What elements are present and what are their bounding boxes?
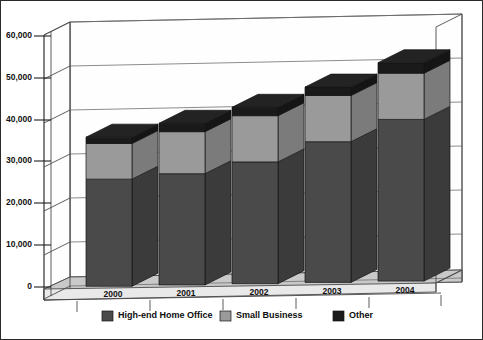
chart-container: 60,000 50,000 40,000 30,000 20,000 10,00… bbox=[0, 0, 483, 340]
x-tick-label-2004: 2004 bbox=[396, 285, 415, 295]
bar-segment-2004-0-front bbox=[378, 119, 424, 281]
bar-segment-2000-2-front bbox=[86, 137, 132, 143]
legend-label-1: Small Business bbox=[236, 310, 303, 320]
bar-group-2002[interactable] bbox=[232, 94, 304, 283]
legend-swatch-1 bbox=[220, 311, 231, 321]
x-tick-label-2003: 2003 bbox=[323, 286, 342, 296]
bar-segment-2000-0-front bbox=[86, 179, 132, 286]
bar-segment-2002-1-front bbox=[232, 116, 278, 162]
y-tick-label-20000: 20,000 bbox=[6, 197, 32, 207]
legend-label-2: Other bbox=[349, 310, 374, 320]
bar-segment-2002-0-front bbox=[232, 162, 278, 284]
bar-segment-2004-0-side bbox=[424, 106, 450, 281]
bar-segment-2004-2-front bbox=[378, 63, 424, 74]
bar-group-2004[interactable] bbox=[378, 50, 450, 281]
y-tick-label-30000: 30,000 bbox=[6, 155, 32, 165]
y-tick-label-0: 0 bbox=[27, 281, 32, 291]
bar-segment-2004-1-front bbox=[378, 73, 424, 119]
x-tick-label-2002: 2002 bbox=[250, 287, 269, 297]
y-tick-label-50000: 50,000 bbox=[6, 72, 32, 82]
bar-segment-2003-2-front bbox=[305, 87, 351, 95]
y-tick-label-10000: 10,000 bbox=[6, 239, 32, 249]
legend-swatch-0 bbox=[102, 311, 113, 321]
legend-label-0: High-end Home Office bbox=[118, 310, 213, 320]
x-tick-label-2000: 2000 bbox=[104, 289, 123, 299]
bar-group-2000[interactable] bbox=[86, 124, 158, 286]
bar-group-2003[interactable] bbox=[305, 74, 377, 282]
bar-segment-2001-1-front bbox=[159, 132, 205, 174]
bar-group-2001[interactable] bbox=[159, 110, 231, 285]
bar-segment-2001-2-front bbox=[159, 123, 205, 131]
bar-segment-2001-0-side bbox=[205, 161, 231, 285]
bar-chart-3d: 60,000 50,000 40,000 30,000 20,000 10,00… bbox=[0, 0, 483, 340]
bar-segment-2003-0-side bbox=[351, 129, 377, 283]
bar-segment-2003-1-front bbox=[305, 95, 351, 141]
chart-legend: High-end Home OfficeSmall BusinessOther bbox=[102, 310, 374, 321]
x-tick-label-2001: 2001 bbox=[177, 288, 196, 298]
y-tick-label-60000: 60,000 bbox=[6, 30, 32, 40]
bar-segment-2001-0-front bbox=[159, 174, 205, 285]
bar-segment-2003-0-front bbox=[305, 142, 351, 283]
y-tick-label-40000: 40,000 bbox=[6, 114, 32, 124]
legend-swatch-2 bbox=[333, 311, 344, 321]
bar-segment-2002-0-side bbox=[278, 149, 304, 284]
bar-segment-2000-1-front bbox=[86, 143, 132, 179]
bar-segment-2002-2-front bbox=[232, 107, 278, 115]
bar-segment-2000-0-side bbox=[132, 166, 158, 286]
